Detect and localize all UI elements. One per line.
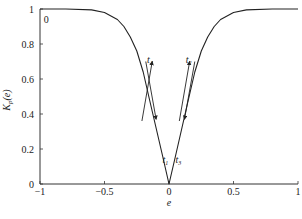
axes [40,9,298,184]
ticks: −1−0.500.5100.20.40.60.81 [22,4,301,198]
x-tick-label: 0.5 [227,186,240,197]
y-tick-label: 1 [29,4,34,15]
y-tick-label: 0.8 [22,39,35,50]
annotation-label: t3 [175,154,181,166]
series-line [40,9,298,184]
y-tick-label: 0.6 [22,74,35,85]
y-tick-label: 0 [29,179,34,190]
annotation-label: t4 [147,54,153,66]
x-tick-label: −1 [35,186,46,197]
arrow-t2-up [179,62,189,122]
y-tick-label: 0.4 [22,109,35,120]
arrow-t3-down [184,62,194,120]
y-axis-label: Kp(e) [1,89,14,112]
x-tick-label: 0 [167,186,172,197]
x-tick-label: 1 [296,186,301,197]
annotation-label: 0 [44,14,49,25]
arrows [142,62,195,122]
y-tick-label: 0.2 [22,144,35,155]
annotation-label: t2 [186,54,192,66]
annotation-label: t1 [163,154,169,166]
annotations: 0t1t2t3t4 [44,14,192,166]
svg-text:Kp(e): Kp(e) [1,89,14,112]
chart: −1−0.500.5100.20.40.60.81 0t1t2t3t4 e Kp… [0,0,302,219]
x-axis-label: e [167,197,172,208]
series [40,9,298,184]
x-tick-label: −0.5 [95,186,113,197]
